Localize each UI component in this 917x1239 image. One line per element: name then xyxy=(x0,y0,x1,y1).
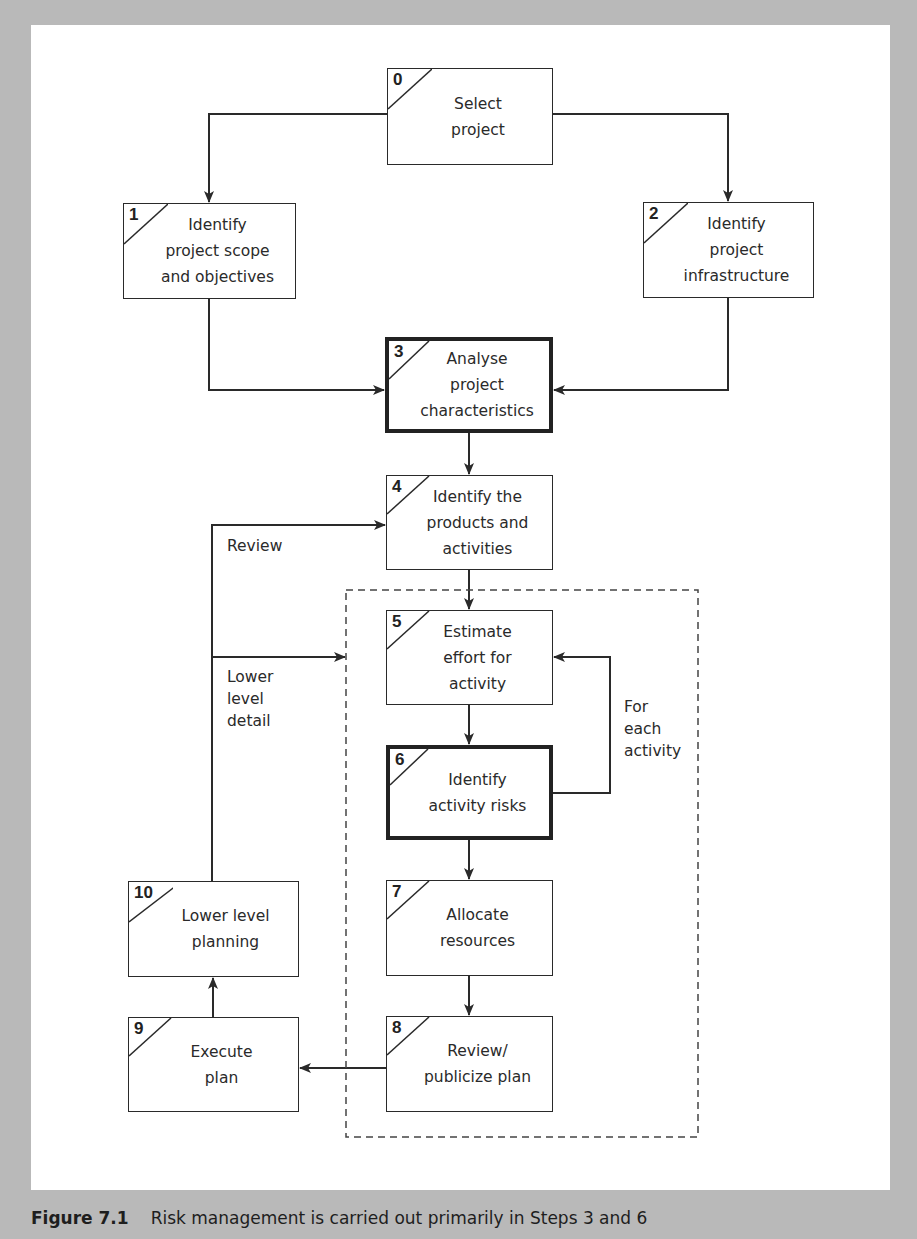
step-3-box: 3 Analyse project characteristics xyxy=(385,337,553,433)
step-10-box: 10 Lower level planning xyxy=(128,881,299,977)
caption-text: Risk management is carried out primarily… xyxy=(151,1208,648,1228)
step-label: Estimate effort for activity xyxy=(423,619,515,697)
step-number: 7 xyxy=(392,882,401,902)
step-label: Identify activity risks xyxy=(409,767,531,819)
figure-caption: Figure 7.1Risk management is carried out… xyxy=(31,1208,647,1228)
step-number: 3 xyxy=(394,342,403,362)
step-label: Analyse project characteristics xyxy=(400,346,538,424)
edge-1-3 xyxy=(209,299,384,390)
step-number: 8 xyxy=(392,1018,401,1038)
step-number: 1 xyxy=(129,205,138,225)
step-0-box: 0 Select project xyxy=(387,68,553,165)
edge-2-3 xyxy=(554,298,728,390)
step-label: Identify the products and activities xyxy=(407,484,533,562)
step-number: 9 xyxy=(134,1019,143,1039)
step-label: Identify project infrastructure xyxy=(664,211,794,289)
step-7-box: 7 Allocate resources xyxy=(386,880,553,976)
step-number: 6 xyxy=(395,750,404,770)
step-label: Review/ publicize plan xyxy=(404,1038,535,1090)
step-5-box: 5 Estimate effort for activity xyxy=(386,610,553,705)
step-6-box: 6 Identify activity risks xyxy=(386,745,553,840)
step-9-box: 9 Execute plan xyxy=(128,1017,299,1112)
edge-0-1 xyxy=(209,114,387,202)
step-8-box: 8 Review/ publicize plan xyxy=(386,1016,553,1112)
step-1-box: 1 Identify project scope and objectives xyxy=(123,203,296,299)
step-label: Lower level planning xyxy=(153,903,273,955)
step-number: 4 xyxy=(392,477,401,497)
step-number: 0 xyxy=(393,70,402,90)
step-label: Execute plan xyxy=(171,1039,257,1091)
step-label: Identify project scope and objectives xyxy=(141,212,278,290)
review-label: Review xyxy=(227,535,282,557)
step-label: Allocate resources xyxy=(420,902,519,954)
lower-level-detail-label: Lower level detail xyxy=(227,666,273,732)
step-number: 5 xyxy=(392,612,401,632)
step-number: 2 xyxy=(649,204,658,224)
step-number: 10 xyxy=(134,883,153,903)
figure-number: Figure 7.1 xyxy=(31,1208,129,1228)
step-4-box: 4 Identify the products and activities xyxy=(386,475,553,570)
for-each-activity-label: For each activity xyxy=(624,696,681,762)
edge-loop-6-5 xyxy=(553,657,610,793)
step-2-box: 2 Identify project infrastructure xyxy=(643,202,814,298)
edge-0-2 xyxy=(553,114,728,201)
step-label: Select project xyxy=(431,91,509,143)
